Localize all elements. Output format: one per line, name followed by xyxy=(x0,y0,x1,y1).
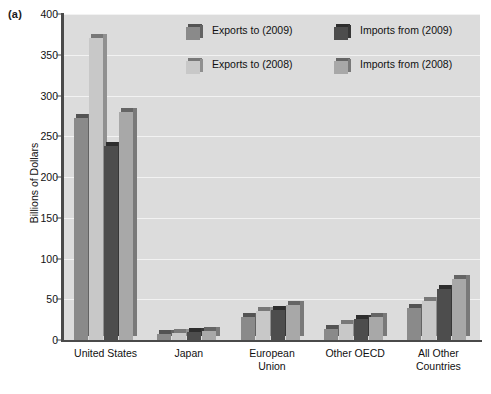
legend-swatch-side xyxy=(348,59,351,72)
bar-front-face xyxy=(74,118,88,340)
legend-swatch-side xyxy=(200,25,203,38)
y-axis-tick-label: 0 xyxy=(6,334,58,346)
legend-color-swatch xyxy=(186,58,203,73)
x-axis-category-label: United States xyxy=(64,347,147,360)
bar-side-face xyxy=(216,327,220,336)
bar-front-face xyxy=(369,317,383,340)
legend-swatch-front xyxy=(334,27,348,40)
y-axis-tick-label: 400 xyxy=(6,8,58,20)
bar-front-face xyxy=(89,38,103,340)
bar-front-face xyxy=(256,311,270,340)
legend-label: Imports from (2009) xyxy=(360,24,452,36)
x-axis-category-label: Japan xyxy=(147,347,230,360)
bar-front-face xyxy=(407,308,421,340)
bar-front-face xyxy=(437,289,451,340)
y-axis-tick-label: 100 xyxy=(6,253,58,265)
legend-color-swatch xyxy=(186,24,203,39)
legend-label: Exports to (2009) xyxy=(212,24,293,36)
bar[interactable] xyxy=(452,275,470,340)
bar-front-face xyxy=(339,324,353,340)
legend-row: Exports to (2008)Imports from (2008) xyxy=(186,56,476,90)
bar-front-face xyxy=(119,112,133,340)
bar-front-face xyxy=(241,317,255,340)
y-axis-tick-labels: 050100150200250300350400 xyxy=(0,0,58,394)
x-axis-category-label: EuropeanUnion xyxy=(230,347,313,373)
bar[interactable] xyxy=(119,108,137,340)
bar-group xyxy=(74,14,137,340)
y-axis-tick-label: 200 xyxy=(6,171,58,183)
bar[interactable] xyxy=(202,327,220,340)
bar-front-face xyxy=(271,310,285,340)
legend-swatch-front xyxy=(334,61,348,74)
bar-side-face xyxy=(133,108,137,336)
bar-front-face xyxy=(104,146,118,340)
bar-front-face xyxy=(187,332,201,340)
legend-swatch-side xyxy=(200,59,203,72)
bar-front-face xyxy=(354,319,368,340)
legend-swatch-side xyxy=(348,25,351,38)
y-axis-line xyxy=(61,13,64,342)
legend-label: Exports to (2008) xyxy=(212,58,293,70)
legend-color-swatch xyxy=(334,58,351,73)
bar[interactable] xyxy=(286,301,304,340)
y-axis-tick-label: 150 xyxy=(6,212,58,224)
y-axis-tick-label: 250 xyxy=(6,130,58,142)
bar-front-face xyxy=(324,329,338,340)
legend-swatch-front xyxy=(186,61,200,74)
bar-side-face xyxy=(383,313,387,336)
chart-legend: Exports to (2009)Imports from (2009)Expo… xyxy=(186,22,476,90)
bar-front-face xyxy=(452,279,466,340)
bar-front-face xyxy=(286,305,300,340)
x-axis-line xyxy=(61,340,482,342)
bar[interactable] xyxy=(369,313,387,340)
bar-front-face xyxy=(202,331,216,340)
legend-row: Exports to (2009)Imports from (2009) xyxy=(186,22,476,56)
y-axis-tick-label: 300 xyxy=(6,90,58,102)
legend-label: Imports from (2008) xyxy=(360,58,452,70)
legend-swatch-front xyxy=(186,27,200,40)
x-axis-category-label: All OtherCountries xyxy=(397,347,480,373)
legend-color-swatch xyxy=(334,24,351,39)
bar-front-face xyxy=(422,301,436,340)
x-axis-category-label: Other OECD xyxy=(314,347,397,360)
bar-chart-figure: (a) Billions of Dollars 0501001502002503… xyxy=(0,0,491,394)
bar-side-face xyxy=(300,301,304,336)
bar-side-face xyxy=(466,275,470,336)
y-axis-tick-label: 350 xyxy=(6,49,58,61)
y-axis-tick-label: 50 xyxy=(6,293,58,305)
bar-front-face xyxy=(172,333,186,340)
